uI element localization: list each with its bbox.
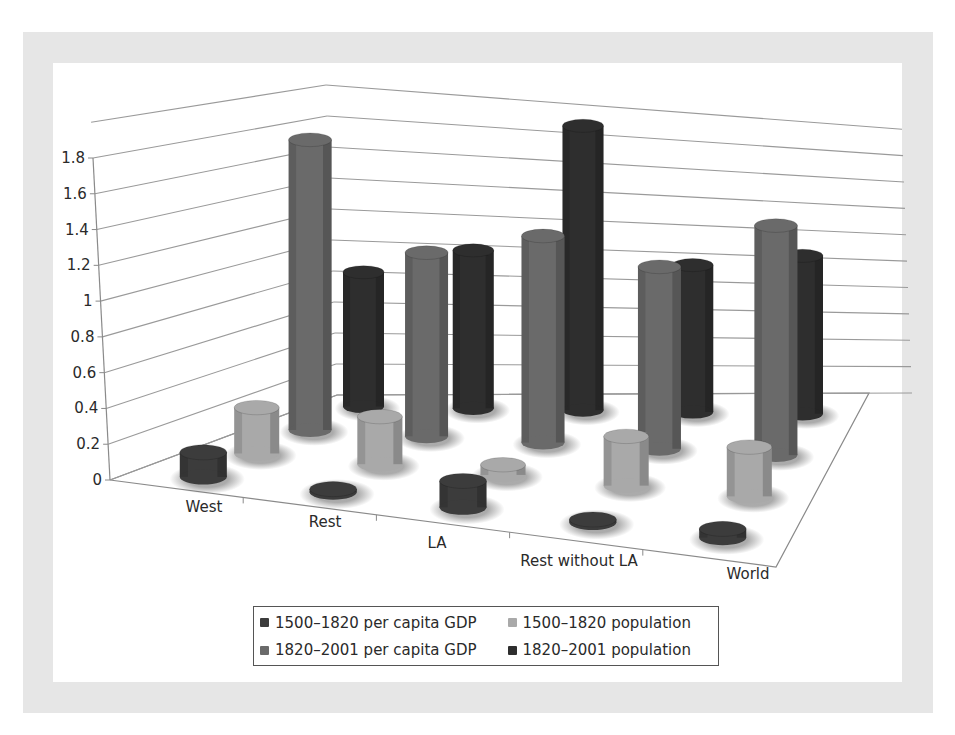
legend-swatch-icon [260, 646, 269, 655]
cylinder-bar [335, 266, 401, 422]
y-tick-label: 0.6 [72, 364, 96, 382]
legend-item: 1820–2001 per capita GDP [260, 638, 498, 663]
legend: 1500–1820 per capita GDP 1500–1820 popul… [253, 606, 719, 666]
legend-label: 1500–1820 per capita GDP [275, 614, 477, 632]
y-tick-label: 1.2 [67, 256, 91, 274]
cylinder-bar [444, 244, 510, 424]
x-category-label: Rest [309, 513, 342, 531]
legend-label: 1820–2001 population [523, 641, 691, 659]
cylinder-bar [280, 133, 349, 446]
legend-swatch-icon [508, 618, 517, 627]
y-tick-label: 1.8 [61, 149, 85, 167]
y-tick-label: 0.2 [76, 435, 100, 453]
y-tick-label: 1.4 [65, 221, 89, 239]
legend-item: 1820–2001 population [508, 638, 712, 663]
y-tick-label: 1 [83, 292, 93, 310]
legend-label: 1820–2001 per capita GDP [275, 641, 477, 659]
cylinder-bar [689, 521, 764, 554]
x-category-label: World [727, 565, 770, 583]
legend-item: 1500–1820 population [508, 610, 712, 635]
cylinder-bars [170, 119, 840, 554]
legend-swatch-icon [260, 618, 269, 627]
y-tick-label: 0.8 [71, 328, 95, 346]
x-category-label: Rest without LA [520, 552, 638, 570]
y-tick-label: 0.4 [74, 399, 98, 417]
cylinder-bar [559, 509, 634, 539]
legend-item: 1500–1820 per capita GDP [260, 610, 498, 635]
y-tick-label: 0 [92, 471, 102, 489]
cylinder-bar [300, 479, 375, 509]
y-tick-label: 1.6 [63, 185, 87, 203]
legend-label: 1500–1820 population [523, 614, 691, 632]
y-axis-ticks: 00.20.40.60.811.21.41.61.8 [61, 149, 110, 489]
x-category-label: LA [428, 534, 448, 552]
legend-swatch-icon [508, 646, 517, 655]
x-category-label: West [186, 498, 223, 516]
